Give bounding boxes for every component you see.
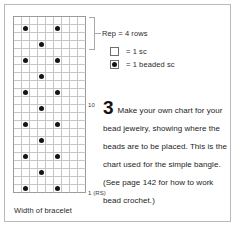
plain-sc-cell	[46, 57, 54, 65]
beaded-sc-cell	[38, 105, 46, 113]
plain-sc-cell	[54, 113, 62, 121]
plain-sc-cell	[62, 169, 70, 177]
plain-sc-cell	[30, 65, 38, 73]
plain-sc-cell	[54, 129, 62, 137]
row-number-label-10: 10	[88, 102, 95, 108]
chart-row	[14, 129, 86, 137]
plain-sc-cell	[78, 177, 86, 185]
step-number: 3	[103, 99, 114, 116]
plain-sc-cell	[78, 33, 86, 41]
legend-label-plain-sc: = 1 sc	[126, 47, 147, 56]
plain-sc-cell	[14, 33, 22, 41]
plain-sc-cell	[30, 169, 38, 177]
plain-sc-cell	[30, 57, 38, 65]
plain-sc-cell	[30, 121, 38, 129]
plain-sc-cell	[46, 97, 54, 105]
plain-sc-cell	[62, 153, 70, 161]
plain-sc-cell	[62, 17, 70, 25]
chart-row	[14, 17, 86, 25]
plain-sc-cell	[70, 105, 78, 113]
plain-sc-cell	[62, 177, 70, 185]
plain-sc-cell	[46, 73, 54, 81]
plain-sc-cell	[62, 33, 70, 41]
plain-sc-cell	[46, 153, 54, 161]
plain-sc-cell	[46, 49, 54, 57]
plain-sc-cell	[38, 113, 46, 121]
plain-sc-cell	[54, 65, 62, 73]
plain-sc-cell	[14, 105, 22, 113]
plain-sc-cell	[46, 129, 54, 137]
plain-sc-cell	[78, 169, 86, 177]
plain-sc-cell	[22, 33, 30, 41]
plain-sc-cell	[54, 169, 62, 177]
plain-sc-cell	[22, 137, 30, 145]
plain-sc-cell	[38, 177, 46, 185]
plain-sc-cell	[14, 185, 22, 193]
plain-sc-cell	[62, 145, 70, 153]
plain-sc-cell	[38, 33, 46, 41]
plain-sc-cell	[54, 161, 62, 169]
plain-sc-cell	[38, 49, 46, 57]
plain-sc-cell	[54, 17, 62, 25]
chart-row	[14, 89, 86, 97]
beaded-sc-cell	[54, 25, 62, 33]
plain-sc-cell	[78, 89, 86, 97]
plain-sc-cell	[62, 105, 70, 113]
empty-square-icon	[110, 47, 119, 56]
chart-row	[14, 105, 86, 113]
plain-sc-cell	[78, 41, 86, 49]
plain-sc-cell	[38, 161, 46, 169]
plain-sc-cell	[62, 81, 70, 89]
plain-sc-cell	[14, 49, 22, 57]
plain-sc-cell	[62, 25, 70, 33]
beaded-sc-cell	[22, 25, 30, 33]
plain-sc-cell	[14, 129, 22, 137]
plain-sc-cell	[30, 129, 38, 137]
plain-sc-cell	[14, 113, 22, 121]
plain-sc-cell	[78, 129, 86, 137]
plain-sc-cell	[78, 25, 86, 33]
beaded-sc-cell	[54, 185, 62, 193]
chart-row	[14, 81, 86, 89]
plain-sc-cell	[78, 81, 86, 89]
plain-sc-cell	[62, 185, 70, 193]
chart-row	[14, 137, 86, 145]
plain-sc-cell	[46, 137, 54, 145]
chart-row	[14, 169, 86, 177]
plain-sc-cell	[78, 161, 86, 169]
plain-sc-cell	[78, 97, 86, 105]
plain-sc-cell	[62, 121, 70, 129]
beaded-sc-cell	[38, 169, 46, 177]
plain-sc-cell	[78, 65, 86, 73]
plain-sc-cell	[54, 81, 62, 89]
plain-sc-cell	[46, 145, 54, 153]
plain-sc-cell	[30, 41, 38, 49]
plain-sc-cell	[46, 33, 54, 41]
plain-sc-cell	[46, 65, 54, 73]
plain-sc-cell	[30, 49, 38, 57]
plain-sc-cell	[30, 89, 38, 97]
repeat-bracket-tick	[95, 33, 101, 34]
legend-label-beaded-sc: = 1 beaded sc	[126, 60, 175, 69]
plain-sc-cell	[70, 33, 78, 41]
plain-sc-cell	[46, 25, 54, 33]
chart-figure-page: 10 1 (RS) Rep = 4 rows = 1 sc = 1 beaded…	[0, 0, 236, 227]
beaded-sc-cell	[54, 153, 62, 161]
plain-sc-cell	[70, 145, 78, 153]
plain-sc-cell	[46, 185, 54, 193]
plain-sc-cell	[62, 129, 70, 137]
beaded-sc-cell	[22, 121, 30, 129]
beaded-sc-cell	[38, 137, 46, 145]
plain-sc-cell	[14, 17, 22, 25]
plain-sc-cell	[14, 137, 22, 145]
chart-row	[14, 49, 86, 57]
plain-sc-cell	[78, 73, 86, 81]
plain-sc-cell	[38, 97, 46, 105]
beaded-sc-cell	[38, 73, 46, 81]
stitch-chart-grid	[13, 16, 86, 193]
plain-sc-cell	[14, 89, 22, 97]
beaded-sc-cell	[22, 57, 30, 65]
plain-sc-cell	[14, 169, 22, 177]
plain-sc-cell	[38, 57, 46, 65]
plain-sc-cell	[46, 161, 54, 169]
